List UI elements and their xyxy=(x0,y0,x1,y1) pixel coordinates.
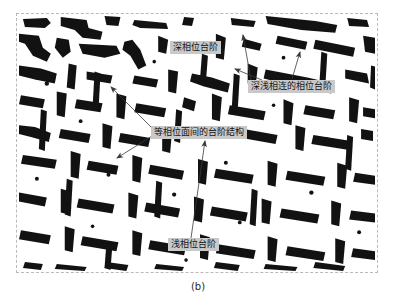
figure-caption: (b) xyxy=(0,281,396,292)
annotation-leader-lines xyxy=(0,0,396,307)
figure-panel-b: 深相位台阶 深浅相连的相位台阶 等相位面间的台阶结构 浅相位台阶 (b) xyxy=(0,0,396,307)
